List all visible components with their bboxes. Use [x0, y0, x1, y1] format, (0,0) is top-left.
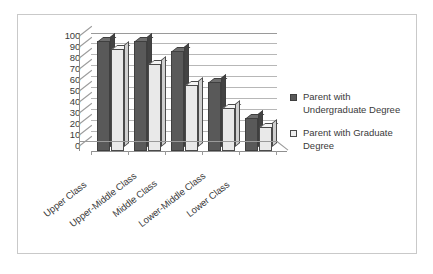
- bar-side-face: [235, 100, 240, 147]
- bar-graduate-lower-class[interactable]: [259, 127, 272, 151]
- legend: Parent with Undergraduate Degree Parent …: [290, 91, 415, 163]
- bar-undergrad-middle-class[interactable]: [171, 51, 184, 151]
- category-tick: [202, 151, 203, 155]
- bar-front-face: [245, 118, 258, 151]
- bar-front-face: [222, 108, 235, 151]
- chart-frame: 100 90 80 70 60 50 40 30 20 10 0: [17, 14, 417, 254]
- bar-front-face: [171, 51, 184, 151]
- bar-front-face: [148, 64, 161, 151]
- x-axis: Upper Class Upper-Middle Class Middle Cl…: [48, 165, 308, 225]
- dark-square-icon: [290, 94, 297, 101]
- bar-front-face: [97, 41, 110, 151]
- bar-front-face: [134, 41, 147, 151]
- light-square-icon: [290, 130, 297, 137]
- category-tick: [128, 151, 129, 155]
- category-tick: [276, 151, 277, 155]
- x-axis-line: [91, 151, 287, 152]
- bar-side-face: [161, 56, 166, 147]
- bar-front-face: [259, 127, 272, 151]
- bar-undergrad-lower-class[interactable]: [245, 118, 258, 151]
- legend-entry-graduate[interactable]: Parent with Graduate Degree: [290, 127, 415, 152]
- legend-label: Parent with Undergraduate Degree: [303, 91, 415, 116]
- bar-graduate-lower-middle-class[interactable]: [222, 108, 235, 151]
- legend-label: Parent with Graduate Degree: [303, 127, 415, 152]
- bar-undergrad-upper-middle-class[interactable]: [134, 41, 147, 151]
- bar-front-face: [111, 49, 124, 151]
- category-tick: [91, 151, 92, 155]
- bar-graduate-upper-middle-class[interactable]: [148, 64, 161, 151]
- bar-side-face: [124, 41, 129, 147]
- bar-side-face: [272, 119, 277, 147]
- bar-undergrad-upper-class[interactable]: [97, 41, 110, 151]
- legend-entry-undergraduate[interactable]: Parent with Undergraduate Degree: [290, 91, 415, 116]
- plot-area: 100 90 80 70 60 50 40 30 20 10 0: [54, 31, 279, 161]
- bar-side-face: [198, 77, 203, 147]
- category-tick: [165, 151, 166, 155]
- category-tick: [239, 151, 240, 155]
- floor-back-edge: [79, 141, 278, 142]
- bar-graduate-upper-class[interactable]: [111, 49, 124, 151]
